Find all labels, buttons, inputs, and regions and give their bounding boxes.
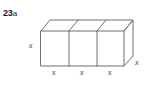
dimension-label-height: x [29,41,33,50]
top-divider-1 [69,20,78,31]
rectangular-prism-figure [0,0,156,93]
figure-screenshot: 23a x x x x x [0,0,156,93]
dimension-label-depth: x [135,58,139,67]
dimension-label-width-2: x [80,68,84,77]
dimension-label-width-3: x [108,68,112,77]
right-face-edges [124,20,133,66]
top-divider-2 [97,20,106,31]
top-face-edges [41,20,133,31]
dimension-label-width-1: x [52,68,56,77]
front-face-edges [41,31,124,66]
